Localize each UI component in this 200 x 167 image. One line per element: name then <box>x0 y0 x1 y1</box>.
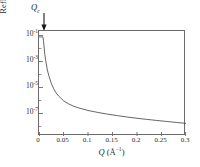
x-axis-title: Q (Å−1) <box>38 147 185 157</box>
y-tick-label-3: 10-5 <box>12 81 38 90</box>
x-axis-symbol: Q <box>99 147 105 157</box>
y-tick-label-2: 10-3 <box>12 55 38 64</box>
x-axis-exponent: −1 <box>116 146 122 152</box>
y-tick-label-1: 10-1 <box>12 29 38 38</box>
reflectivity-curve <box>39 37 186 123</box>
x-tick-label-6: 0.3 <box>171 136 199 144</box>
qc-down-arrow-icon <box>40 13 48 31</box>
plot-area <box>38 30 185 135</box>
reflectivity-chart-figure: Qc Reflectivity 10-1 10-3 10-5 10-7 <box>0 0 200 167</box>
y-tick-label-4: 10-7 <box>12 107 38 116</box>
reflectivity-curve-svg <box>39 31 186 136</box>
